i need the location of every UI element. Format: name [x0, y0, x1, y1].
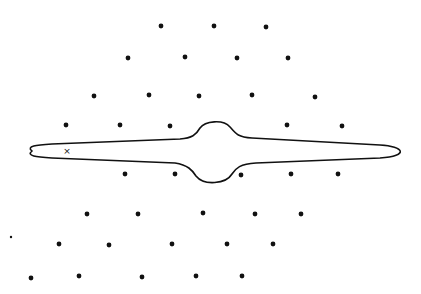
dot-point [183, 55, 188, 60]
dot-point [77, 274, 82, 279]
dot-point [285, 123, 290, 128]
dot-point [85, 212, 90, 217]
dot-point [168, 124, 173, 129]
small-mark [10, 236, 12, 238]
dot-point [57, 242, 62, 247]
dot-point [271, 242, 276, 247]
dot-point [225, 242, 230, 247]
dot-point [212, 24, 217, 29]
dot-point [313, 95, 318, 100]
dot-point [240, 274, 245, 279]
dot-point [92, 94, 97, 99]
dot-point [340, 124, 345, 129]
dot-point [123, 172, 128, 177]
dot-point [29, 276, 34, 281]
dot-point [264, 25, 269, 30]
stray-marks [10, 236, 12, 238]
dot-point [118, 123, 123, 128]
dot-point [239, 173, 244, 178]
dot-point [289, 172, 294, 177]
dot-point [197, 94, 202, 99]
dot-point [136, 212, 141, 217]
diagram-canvas: × [0, 0, 421, 294]
dot-point [299, 212, 304, 217]
dot-point [170, 242, 175, 247]
dot-point [250, 93, 255, 98]
dot-point [194, 274, 199, 279]
dot-point [336, 172, 341, 177]
dot-point [140, 275, 145, 280]
dot-point [64, 123, 69, 128]
dot-point [253, 212, 258, 217]
dot-point [173, 172, 178, 177]
cross-marker-icon: × [63, 146, 71, 156]
dot-point [286, 56, 291, 61]
dot-point [159, 24, 164, 29]
dot-point [107, 243, 112, 248]
diagram-svg: × [0, 0, 421, 294]
dot-point [126, 56, 131, 61]
dot-point [235, 56, 240, 61]
dot-point [201, 211, 206, 216]
dot-point [147, 93, 152, 98]
